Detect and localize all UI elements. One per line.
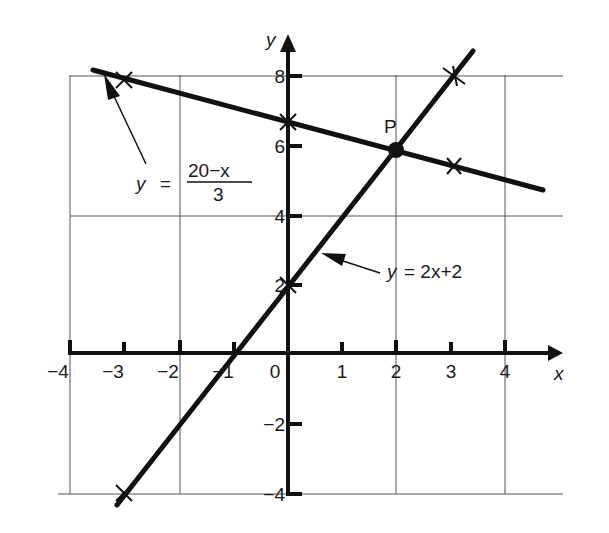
equation-label-20-minus-x-over-3: y = 20−x 3 [134, 160, 252, 205]
y-tick-label: 2 [274, 275, 285, 296]
series-line-20-minus-x-over-3 [93, 70, 543, 190]
y-tick-label: −2 [263, 414, 285, 435]
point-p-label: P [384, 116, 397, 137]
x-tick-label: −1 [212, 361, 234, 382]
y-tick-label: 8 [274, 66, 285, 87]
annotation-arrow-eq2 [104, 74, 146, 164]
x-tick-label: −3 [102, 361, 124, 382]
x-tick-label: −2 [157, 361, 179, 382]
x-tick-label: 4 [500, 361, 511, 382]
x-tick-labels: −4 −3 −2 −1 0 1 2 3 4 [47, 361, 511, 382]
eq2-equals: = [160, 173, 171, 194]
eq1-lhs: y [385, 261, 398, 282]
x-axis [68, 340, 563, 361]
eq2-lhs: y [134, 173, 147, 194]
x-tick-label: 3 [446, 361, 457, 382]
equation-label-2x-plus-2: y = 2x+2 [385, 261, 462, 282]
intersection-point-p [388, 142, 404, 158]
eq2-denominator: 3 [213, 184, 224, 205]
y-tick-label: 6 [274, 136, 285, 157]
x-axis-label: x [553, 363, 565, 384]
x-tick-label: 2 [391, 361, 402, 382]
annotation-arrow-eq1 [321, 253, 380, 273]
x-tick-label: −4 [47, 361, 69, 382]
y-tick-label: −4 [263, 484, 285, 505]
x-tick-label: 0 [270, 361, 281, 382]
eq2-numerator: 20−x [188, 160, 230, 181]
y-axis-label: y [264, 29, 277, 50]
eq1-rhs: = 2x+2 [404, 261, 462, 282]
y-tick-label: 4 [274, 206, 285, 227]
y-tick-labels: 8 6 4 2 −2 −4 [263, 66, 285, 505]
linear-equations-graph: P y = 2x+2 y = 20−x 3 y x −4 −3 −2 −1 0 … [0, 0, 609, 533]
x-tick-label: 1 [337, 361, 348, 382]
